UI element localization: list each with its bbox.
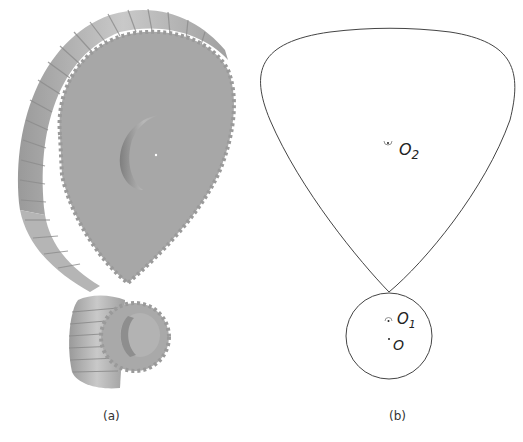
label-o1: O1 [397,310,416,331]
center-o2-marker [384,141,392,145]
point-o-marker [388,338,390,340]
large-gear [18,9,234,292]
label-o: O [393,337,404,353]
panel-a-gear-render [0,0,260,400]
caption-b: (b) [389,409,406,423]
caption-a: (a) [103,409,120,423]
pitch-curve-diagram: O2 O1 O [250,0,523,400]
large-pitch-curve [261,28,515,292]
label-o2: O2 [399,140,419,162]
small-pitch-circle [346,293,432,379]
gear-render-illustration [0,0,260,400]
small-pinion [69,296,169,389]
center-o1-marker [385,318,392,323]
panel-b-pitch-curves: O2 O1 O [250,0,523,400]
